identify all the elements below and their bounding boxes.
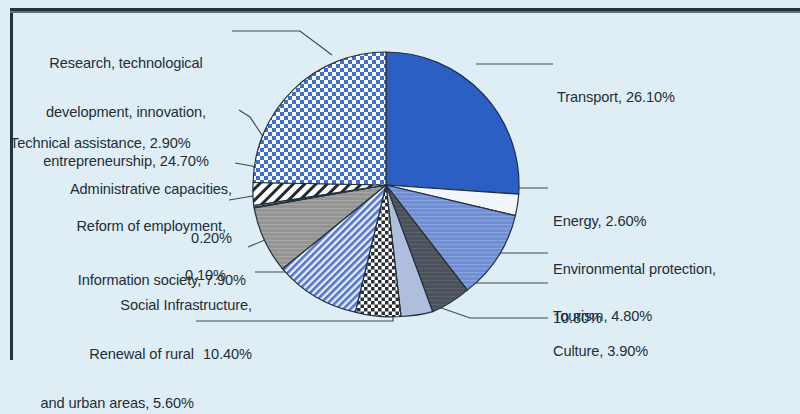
label-renewal-rural-urban: Renewal of rural and urban areas, 5.60% [18, 313, 194, 414]
label-transport-line1: Transport, 26.10% [557, 89, 767, 105]
label-renewal-rural-urban-line1: Renewal of rural [18, 346, 194, 362]
label-research-line1: Research, technological [18, 55, 234, 71]
label-transport: Transport, 26.10% [557, 56, 767, 138]
label-culture-line1: Culture, 3.90% [553, 343, 753, 359]
pie-slices [253, 52, 519, 317]
label-social-infrastructure-line1: Social Infrastructure, [18, 297, 252, 313]
label-reform-of-employment-line1: Reform of employment, [18, 218, 226, 234]
pie-slice-transport[interactable] [386, 52, 519, 194]
label-energy-line1: Energy, 2.60% [553, 213, 753, 229]
label-renewal-rural-urban-line2: and urban areas, 5.60% [0, 395, 194, 411]
label-culture: Culture, 3.90% [553, 310, 753, 392]
pie-slice-research[interactable] [253, 52, 386, 185]
